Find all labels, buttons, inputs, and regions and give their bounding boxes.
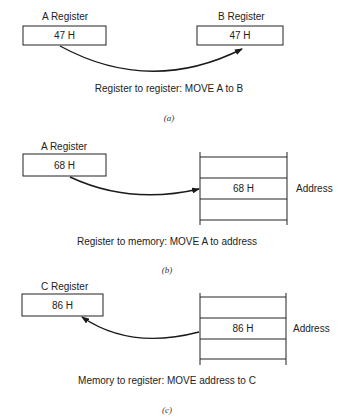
panel-a: A Register 47 H B Register 47 H Register…	[23, 11, 283, 123]
transfer-arrow	[70, 177, 199, 195]
c-register-value: 86 H	[52, 300, 73, 311]
b-register-label: B Register	[218, 11, 265, 22]
transfer-arrow	[82, 317, 199, 338]
address-label: Address	[296, 183, 333, 194]
memory-cell-value: 68 H	[233, 183, 254, 194]
b-register-value: 47 H	[229, 30, 250, 41]
a-register-value: 47 H	[54, 30, 75, 41]
subfigure-label-a: (a)	[164, 113, 175, 123]
a-register-value: 68 H	[54, 160, 75, 171]
c-register-label: C Register	[41, 281, 89, 292]
caption-b: Register to memory: MOVE A to address	[77, 236, 257, 247]
memory-cell-value: 86 H	[232, 323, 253, 334]
transfer-arrow	[60, 46, 242, 71]
address-label: Address	[293, 323, 330, 334]
subfigure-label-b: (b)	[162, 265, 173, 275]
caption-c: Memory to register: MOVE address to C	[78, 375, 256, 386]
panel-b: A Register 68 H 68 H Address Register to…	[23, 141, 333, 275]
subfigure-label-c: (c)	[162, 405, 172, 415]
data-transfer-diagram: A Register 47 H B Register 47 H Register…	[0, 0, 338, 417]
panel-c: C Register 86 H 86 H Address Memory to r…	[22, 281, 330, 415]
a-register-label: A Register	[42, 11, 89, 22]
a-register-label: A Register	[41, 141, 88, 152]
caption-a: Register to register: MOVE A to B	[95, 83, 244, 94]
